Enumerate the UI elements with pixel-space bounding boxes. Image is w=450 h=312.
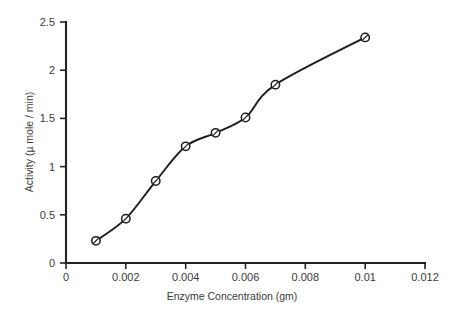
line-chart: 0 0.5 1 1.5 2 2.5 0 0.002 0.004 0.006 0.… [0, 0, 450, 312]
y-tick-label: 0.5 [40, 209, 55, 221]
x-tick-label: 0.004 [172, 271, 200, 283]
chart-container: 0 0.5 1 1.5 2 2.5 0 0.002 0.004 0.006 0.… [0, 0, 450, 312]
y-tick-label: 1 [49, 161, 55, 173]
y-tick-label: 2 [49, 64, 55, 76]
x-tick-label: 0.01 [354, 271, 375, 283]
x-tick-label: 0.012 [411, 271, 439, 283]
y-tick-label: 0 [49, 257, 55, 269]
x-tick-label: 0 [63, 271, 69, 283]
y-tick-label: 1.5 [40, 112, 55, 124]
chart-background [0, 0, 450, 312]
x-axis-title: Enzyme Concentration (gm) [167, 290, 298, 302]
y-axis-title: Activity (µ mole / min) [23, 92, 35, 193]
x-tick-label: 0.006 [232, 271, 260, 283]
x-tick-label: 0.008 [292, 271, 320, 283]
y-tick-label: 2.5 [40, 16, 55, 28]
x-tick-label: 0.002 [112, 271, 140, 283]
